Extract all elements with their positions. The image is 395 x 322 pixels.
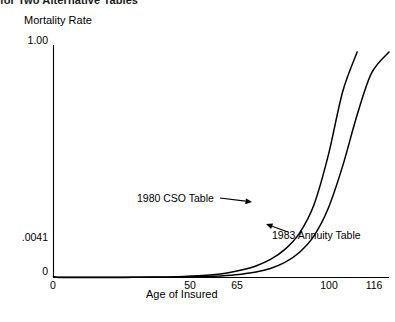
chart-figure: for Two Alternative Tables Mortality Rat… xyxy=(0,0,395,322)
series-1983-annuity xyxy=(54,52,390,277)
plot-area xyxy=(0,0,395,322)
leader-arrow-1980-cso xyxy=(220,198,252,204)
series-1980-cso xyxy=(54,52,358,277)
leader-arrow-1983-annuity xyxy=(266,223,288,232)
